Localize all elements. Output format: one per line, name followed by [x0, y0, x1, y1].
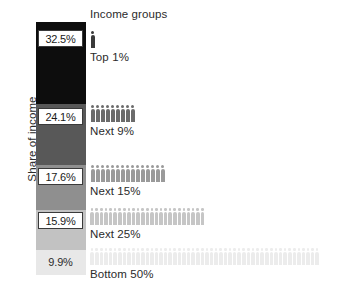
legend-title: Income groups	[90, 8, 167, 20]
pictogram-next-25	[90, 208, 205, 225]
legend-group-next-9[interactable]: Next 9%	[90, 105, 135, 137]
person-icon	[90, 31, 95, 48]
income-share-chart: Share of income 32.5% 24.1% 17.6% 15.9% …	[0, 0, 346, 293]
pictogram-top-1	[90, 31, 129, 48]
bar-segment-next-9[interactable]: 24.1%	[36, 104, 86, 165]
person-icon	[315, 248, 320, 265]
bar-segment-value-label: 32.5%	[38, 30, 83, 47]
person-icon	[160, 165, 165, 182]
person-icon	[200, 208, 205, 225]
legend-group-bottom-50[interactable]: Bottom 50%	[90, 248, 320, 280]
pictogram-bottom-50	[90, 248, 320, 265]
legend-group-next-25[interactable]: Next 25%	[90, 208, 205, 240]
pictogram-next-15	[90, 165, 165, 182]
bar-segment-bottom-50[interactable]: 9.9%	[36, 250, 86, 275]
bar-segment-next-15[interactable]: 17.6%	[36, 165, 86, 210]
pictogram-next-9	[90, 105, 135, 122]
legend-label: Next 15%	[90, 185, 165, 197]
legend-group-next-15[interactable]: Next 15%	[90, 165, 165, 197]
legend-group-top-1[interactable]: Top 1%	[90, 31, 129, 63]
bar-segment-value-label: 17.6%	[38, 168, 83, 185]
legend-label: Next 9%	[90, 125, 135, 137]
bar-segment-next-25[interactable]: 15.9%	[36, 210, 86, 250]
person-icon	[130, 105, 135, 122]
bar-segment-value-label: 9.9%	[38, 254, 83, 271]
bar-segment-value-label: 24.1%	[38, 108, 83, 125]
legend-label: Next 25%	[90, 228, 205, 240]
legend-label: Top 1%	[90, 51, 129, 63]
bar-segment-top-1[interactable]: 32.5%	[36, 22, 86, 104]
stacked-bar: 32.5% 24.1% 17.6% 15.9% 9.9%	[36, 22, 86, 275]
bar-segment-value-label: 15.9%	[38, 212, 83, 229]
legend-label: Bottom 50%	[90, 268, 320, 280]
